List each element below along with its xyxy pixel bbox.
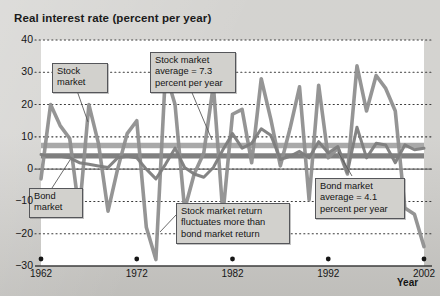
- annotation-bond-average: Bond market average = 4.1 percent per ye…: [315, 178, 405, 219]
- x-axis-tick-label: 1992: [305, 268, 351, 279]
- x-axis-tick-label: 1962: [18, 268, 64, 279]
- x-axis-tick-dot: [326, 257, 331, 262]
- annotation-bond-market: Bond market: [29, 188, 83, 218]
- annotation-stock-average: Stock market average = 7.3 percent per y…: [150, 52, 236, 93]
- y-axis-tick-label: −10: [7, 194, 33, 206]
- chart-plot-area: [0, 0, 440, 296]
- annotation-return-fluctuation: Stock market return fluctuates more than…: [176, 203, 290, 244]
- y-axis-tick-label: −20: [7, 227, 33, 239]
- y-axis-tick-label: 0: [7, 162, 33, 174]
- x-axis-tick-label: 1972: [114, 268, 160, 279]
- x-axis-tick-label: 1982: [210, 268, 256, 279]
- y-axis-tick-label: 30: [7, 65, 33, 77]
- x-axis-tick-dot: [134, 257, 139, 262]
- y-axis-tick-label: 40: [7, 33, 33, 45]
- y-axis-tick-label: 20: [7, 98, 33, 110]
- x-axis-label: Year: [397, 277, 418, 288]
- x-axis-tick-dot: [230, 257, 235, 262]
- x-axis-tick-dot: [422, 257, 427, 262]
- y-axis-tick-label: 10: [7, 130, 33, 142]
- x-axis-tick-dot: [39, 257, 44, 262]
- figure-panel: Real interest rate (percent per year) St…: [0, 0, 440, 296]
- annotation-stock-market: Stock market: [52, 63, 108, 93]
